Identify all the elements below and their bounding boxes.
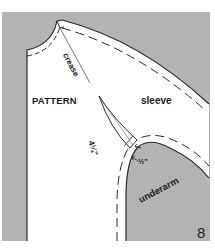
pattern-label: PATTERN	[32, 96, 77, 106]
sleeve-label: sleeve	[141, 96, 172, 106]
measurement-short-label: ½"	[138, 158, 148, 166]
figure-number: 8	[197, 225, 205, 240]
pattern-diagram	[0, 0, 215, 249]
